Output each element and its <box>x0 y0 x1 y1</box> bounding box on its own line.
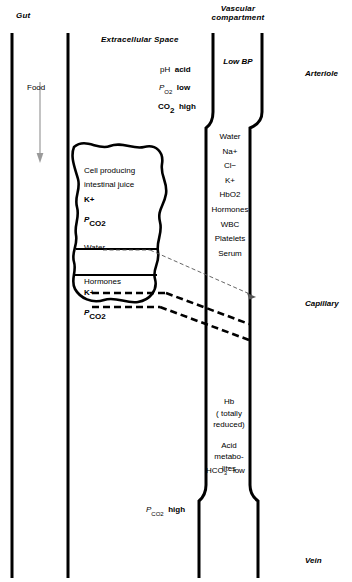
venous-bicarbonate-state: low <box>233 466 245 475</box>
venous-hb-line1: Hb <box>204 396 254 408</box>
list-item: HbO2 <box>204 188 256 203</box>
side-label-capillary: Capillary <box>305 299 339 308</box>
venous-hb-line3: reduced) <box>204 419 254 431</box>
cell-potassium-secreted: K+ <box>84 288 94 297</box>
list-item: Platelets <box>204 232 256 247</box>
extracellular-ph-name: pH <box>160 65 170 74</box>
list-item: Water <box>204 130 256 145</box>
venous-bicarbonate: HCO3− low <box>206 464 245 476</box>
venous-bicarbonate-subscript: 3 <box>224 470 227 476</box>
header-gut: Gut <box>16 11 30 20</box>
extracellular-po2: PO2 low <box>159 76 190 95</box>
list-item: Hormones <box>204 203 256 218</box>
venous-acid-line2: metabo- <box>204 451 254 463</box>
extracellular-pco2-bottom: PCO2 high <box>146 498 185 517</box>
header-extracellular-space: Extracellular Space <box>101 35 179 44</box>
extracellular-pco2-bottom-subscript: CO2 <box>151 511 163 517</box>
venous-bicarbonate-symbol: HCO <box>206 466 224 475</box>
extracellular-co2-subscript: 2 <box>170 106 174 115</box>
vessel-wall-right <box>250 33 262 578</box>
pco2-transport-arrow <box>92 307 249 340</box>
side-label-arteriole: Arteriole <box>305 69 338 78</box>
header-vascular-line1: Vascular <box>198 4 278 13</box>
potassium-transport-arrow <box>92 293 249 324</box>
arterial-contents-list: Water Na+ Cl− K+ HbO2 Hormones WBC Plate… <box>204 130 256 261</box>
extracellular-po2-state: low <box>177 83 190 92</box>
cell-pco2-secreted: PCO2 <box>84 301 106 321</box>
venous-contents-list: Hb ( totally reduced) Acid metabo- lites <box>204 396 254 474</box>
venous-acid-line1: Acid <box>204 440 254 452</box>
list-item: Na+ <box>204 145 256 160</box>
venous-hb-line2: ( totally <box>204 408 254 420</box>
cell-pco2: PCO2 <box>84 208 106 228</box>
cell-name-line1: Cell producing <box>84 166 135 175</box>
gut-food-label: Food <box>27 83 45 92</box>
cell-hormones: Hormones <box>84 277 121 286</box>
list-item: K+ <box>204 174 256 189</box>
header-vascular-compartment: Vascular compartment <box>198 4 278 22</box>
vessel-low-bp: Low BP <box>212 57 264 66</box>
cell-pco2-subscript: CO2 <box>89 219 105 228</box>
list-item: Serum <box>204 247 256 262</box>
list-item: Cl− <box>204 159 256 174</box>
venous-bicarbonate-charge: − <box>227 464 231 470</box>
cell-pco2-secreted-subscript: CO2 <box>89 312 105 321</box>
extracellular-pco2-bottom-state: high <box>168 505 185 514</box>
extracellular-ph-state: acid <box>175 65 191 74</box>
list-item: WBC <box>204 218 256 233</box>
extracellular-co2-symbol: CO <box>158 102 170 111</box>
extracellular-ph: pH acid <box>160 58 191 76</box>
side-label-vein: Vein <box>305 556 322 565</box>
header-vascular-line2: compartment <box>198 13 278 22</box>
extracellular-co2-state: high <box>179 102 196 111</box>
cell-potassium: K+ <box>84 195 94 204</box>
cell-name-line2: intestinal juice <box>84 180 134 189</box>
extracellular-co2: CO2 high <box>158 95 196 115</box>
cell-water: Water <box>84 243 105 252</box>
food-arrow <box>37 82 44 163</box>
